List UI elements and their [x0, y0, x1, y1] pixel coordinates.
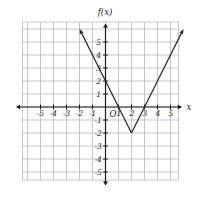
y-tick-label: 2: [95, 77, 101, 86]
x-tick-label: -2: [76, 109, 84, 118]
y-tick-label: -2: [94, 129, 102, 138]
x-tick-label: 5: [169, 109, 174, 118]
graph-figure: -5-4-3-2-11234554321-1-2-3-4-5 f(x) x O: [0, 0, 198, 197]
x-tick-label: -4: [50, 109, 58, 118]
y-tick-label: -3: [94, 142, 102, 151]
x-axis-label: x: [187, 102, 192, 112]
y-tick-label: -5: [94, 168, 102, 177]
x-tick-label: 3: [143, 109, 148, 118]
x-tick-label: 1: [117, 109, 122, 118]
x-tick-label: -5: [37, 109, 45, 118]
y-tick-label: -1: [94, 116, 101, 125]
y-axis-label: f(x): [97, 7, 113, 17]
coordinate-plane: -5-4-3-2-11234554321-1-2-3-4-5 f(x) x O: [0, 0, 198, 197]
y-tick-label: 1: [96, 90, 101, 99]
y-tick-label: 4: [95, 51, 101, 60]
y-tick-label: 3: [96, 64, 101, 73]
x-tick-label: -3: [63, 109, 71, 118]
y-tick-label: 5: [96, 38, 101, 47]
y-tick-label: -4: [94, 155, 102, 164]
origin-label: O: [109, 109, 116, 119]
x-tick-label: 4: [155, 109, 161, 118]
x-tick-label: 2: [129, 109, 135, 118]
